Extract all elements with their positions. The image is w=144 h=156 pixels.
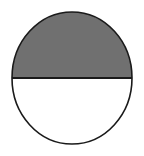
lower-half-unshaded-region xyxy=(12,78,132,144)
half-shaded-circle-svg xyxy=(0,0,144,156)
upper-half-shaded-region xyxy=(12,12,132,78)
figure-canvas xyxy=(0,0,144,156)
